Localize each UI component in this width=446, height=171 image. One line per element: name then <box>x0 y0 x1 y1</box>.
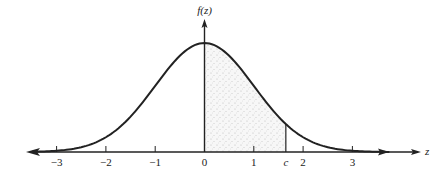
x-tick-label: −1 <box>149 156 161 168</box>
x-axis-label: z <box>424 145 430 157</box>
y-axis-label: f(z) <box>197 4 212 17</box>
x-tick-label: −3 <box>51 156 63 168</box>
x-tick-label: 1 <box>251 156 257 168</box>
x-tick-label: 0 <box>202 156 208 168</box>
x-tick-label: 2 <box>300 156 306 168</box>
x-tick-label: −2 <box>100 156 112 168</box>
x-tick-label: 3 <box>350 156 356 168</box>
c-marker-label: c <box>283 156 288 168</box>
shaded-area <box>205 43 286 152</box>
normal-curve-figure: −3−2−10123 f(z) z c <box>0 0 446 171</box>
